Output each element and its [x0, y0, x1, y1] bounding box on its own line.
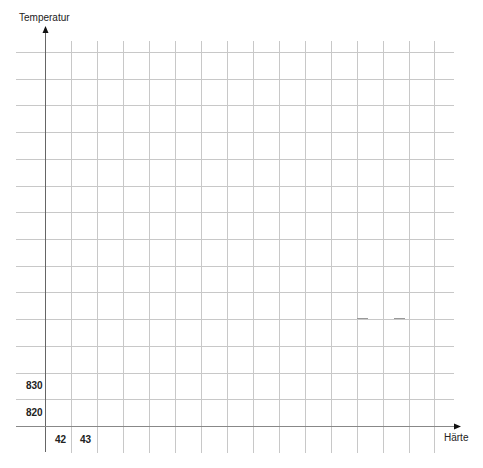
y-axis-label: Temperatur [19, 12, 70, 23]
horizontal-grid-lines [16, 53, 454, 400]
y-tick-820: 820 [26, 407, 43, 418]
x-axis-label: Härte [444, 432, 468, 443]
x-axis-arrow-icon [454, 424, 461, 430]
x-tick-42: 42 [55, 434, 66, 445]
x-tick-43: 43 [80, 434, 91, 445]
chart-canvas [0, 0, 483, 468]
y-axis-arrow-icon [43, 26, 49, 33]
y-tick-830: 830 [26, 380, 43, 391]
vertical-grid-lines [72, 41, 435, 453]
